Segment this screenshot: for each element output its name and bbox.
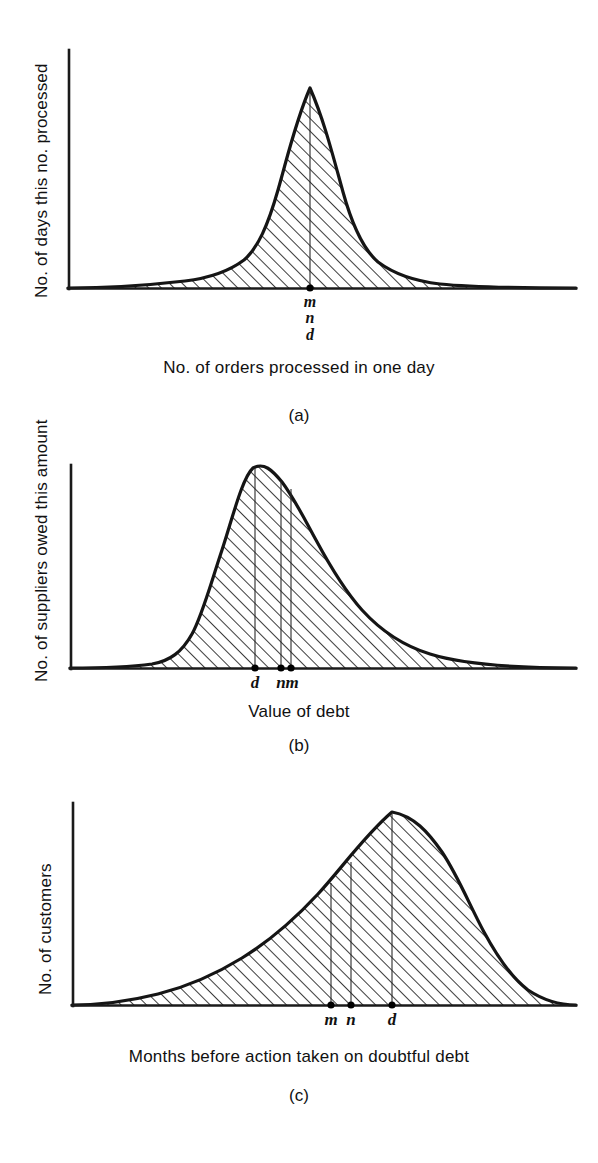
chart-c-marker-label-d: d — [383, 1011, 401, 1029]
chart-panel-a: No. of days this no. processed m n d No.… — [0, 0, 598, 400]
chart-a-y-axis-label: No. of days this no. processed — [32, 63, 52, 298]
chart-c-x-axis-label: Months before action taken on doubtful d… — [0, 1047, 598, 1067]
chart-c-y-axis-label: No. of customers — [36, 863, 56, 995]
chart-panel-c: No. of customers m n d Months before act… — [0, 770, 598, 1163]
chart-a-marker-label-n: n — [292, 310, 328, 326]
chart-a-marker-labels: m n d — [292, 294, 328, 343]
chart-a-x-axis-label: No. of orders processed in one day — [0, 358, 598, 378]
chart-a-marker-label-d: d — [292, 327, 328, 343]
chart-b-caption: (b) — [0, 736, 598, 756]
chart-c-marker-dot-n — [347, 1001, 354, 1008]
chart-c-marker-dot-m — [327, 1001, 334, 1008]
chart-b-marker-label-m: m — [283, 674, 301, 692]
chart-a-marker-dot-mnd — [306, 284, 313, 291]
chart-b-x-axis-label: Value of debt — [0, 702, 598, 722]
chart-b-y-axis-label: No. of suppliers owed this amount — [32, 419, 52, 682]
figure-page: No. of days this no. processed m n d No.… — [0, 0, 598, 1163]
chart-b-marker-dot-n — [277, 664, 284, 671]
chart-c-marker-dot-d — [388, 1001, 395, 1008]
chart-b-marker-label-d: d — [246, 674, 264, 692]
chart-a-hatch-fill — [60, 60, 590, 292]
chart-b-hatch-fill — [60, 455, 590, 670]
chart-c-caption: (c) — [0, 1086, 598, 1106]
chart-c-hatch-fill — [62, 800, 590, 1010]
chart-b-marker-dot-d — [251, 664, 258, 671]
chart-c-marker-label-m: m — [322, 1011, 340, 1029]
chart-panel-b: No. of suppliers owed this amount d n m … — [0, 400, 598, 770]
chart-b-marker-dot-m — [287, 664, 294, 671]
chart-a-marker-label-m: m — [292, 294, 328, 310]
chart-c-marker-label-n: n — [342, 1011, 360, 1029]
